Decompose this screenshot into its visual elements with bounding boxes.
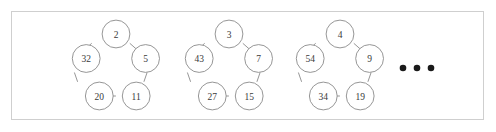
node-label: 20 (95, 92, 105, 102)
node-bottom-left[interactable]: 34 (309, 82, 337, 110)
edge-bottomleft-left (298, 73, 301, 82)
node-label: 27 (208, 92, 218, 102)
pentagon-1-nodes: 2 5 11 20 32 (72, 20, 159, 110)
node-label: 34 (319, 92, 329, 102)
node-bottom-right[interactable]: 19 (346, 82, 374, 110)
pentagon-3-nodes: 4 9 19 34 54 (296, 20, 383, 110)
node-label: 15 (244, 92, 254, 102)
graph-canvas: 2 5 11 20 32 (0, 0, 496, 132)
node-label: 32 (81, 54, 91, 64)
node-right[interactable]: 9 (356, 45, 384, 73)
node-bottom-right[interactable]: 11 (122, 82, 150, 110)
node-top[interactable]: 2 (102, 20, 130, 48)
node-bottom-left[interactable]: 27 (198, 82, 226, 110)
node-label: 5 (143, 54, 148, 64)
node-left[interactable]: 32 (72, 45, 100, 73)
node-label: 7 (256, 54, 261, 64)
edge-right-bottomright (368, 73, 371, 82)
ellipsis-indicator (400, 65, 435, 72)
node-left[interactable]: 54 (296, 45, 324, 73)
edge-right-bottomright (144, 73, 147, 82)
figure-root: 2 5 11 20 32 (0, 0, 496, 132)
node-label: 3 (227, 30, 232, 40)
node-top[interactable]: 4 (326, 20, 354, 48)
edge-bottomleft-left (74, 73, 77, 82)
node-label: 19 (355, 92, 365, 102)
node-label: 11 (132, 92, 141, 102)
node-label: 4 (338, 30, 343, 40)
edge-bottomleft-left (187, 73, 190, 82)
ellipsis-dot (428, 65, 435, 72)
node-label: 9 (367, 54, 372, 64)
node-label: 2 (114, 30, 119, 40)
edge-right-bottomright (257, 73, 260, 82)
node-bottom-right[interactable]: 15 (235, 82, 263, 110)
node-label: 54 (305, 54, 315, 64)
pentagon-graph-3: 4 9 19 34 54 (296, 20, 383, 110)
pentagon-graph-1: 2 5 11 20 32 (72, 20, 159, 110)
ellipsis-dot (400, 65, 407, 72)
pentagon-graph-2: 3 7 15 27 43 (185, 20, 272, 110)
node-right[interactable]: 5 (132, 45, 160, 73)
ellipsis-dot (414, 65, 421, 72)
node-top[interactable]: 3 (215, 20, 243, 48)
node-left[interactable]: 43 (185, 45, 213, 73)
node-label: 43 (194, 54, 204, 64)
node-right[interactable]: 7 (245, 45, 273, 73)
node-bottom-left[interactable]: 20 (85, 82, 113, 110)
